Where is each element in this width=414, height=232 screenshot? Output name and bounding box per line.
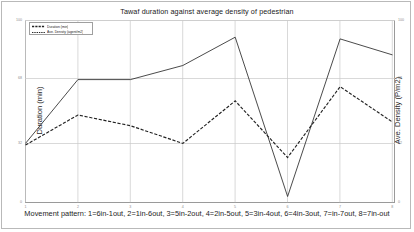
chart-title: Tawaf duration against average density o…	[0, 7, 414, 16]
y-left-tick: 0	[6, 200, 22, 204]
y-right-tick: 100	[398, 18, 414, 22]
y-left-tick: 100	[6, 18, 22, 22]
y-axis-left-title: Duration (min)	[35, 51, 44, 171]
plot-area: 100 68 32 0 100 68 32 0 1 2 3 4 5 6 7 8 …	[25, 20, 395, 203]
series-line-duration	[26, 37, 393, 196]
legend-item: Duration (min)	[32, 24, 91, 29]
y-left-tick: 68	[6, 76, 22, 80]
x-axis-caption: Movement pattern: 1=6in-1out, 2=1in-6out…	[0, 209, 414, 218]
legend-item: Ave. Density (agent/m2)	[32, 30, 91, 35]
series-line-density	[26, 87, 393, 158]
legend-item-label: Duration (min)	[47, 25, 68, 29]
y-axis-right-title: Ave. Density (P/m2)	[393, 51, 402, 171]
chart-legend: Duration (min) Ave. Density (agent/m2)	[29, 22, 93, 35]
legend-line-swatch-icon	[32, 31, 45, 34]
plot-canvas	[25, 20, 395, 203]
chart-figure: Tawaf duration against average density o…	[0, 0, 414, 232]
legend-item-label: Ave. Density (agent/m2)	[47, 30, 83, 34]
gridlines-horizontal	[25, 21, 395, 203]
legend-line-swatch-icon	[32, 25, 45, 28]
y-right-tick: 0	[398, 200, 414, 204]
y-left-tick: 32	[6, 141, 22, 145]
